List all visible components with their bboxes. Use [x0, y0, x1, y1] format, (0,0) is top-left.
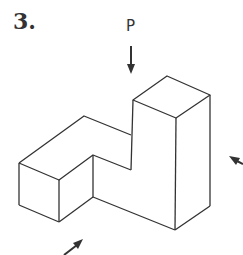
arm-back-top — [19, 116, 131, 163]
base-bottom-front — [93, 197, 175, 230]
left-block-bottom-right — [59, 197, 93, 222]
right-view-arrow — [229, 156, 243, 165]
top-view-arrow — [127, 46, 135, 74]
tall-block-front-edge — [175, 118, 176, 230]
isometric-figure — [0, 0, 243, 255]
left-block-bottom — [19, 205, 59, 222]
arm-top-front — [19, 155, 131, 180]
tall-block-bottom-right — [175, 206, 210, 230]
front-view-arrow — [64, 239, 83, 255]
tall-block-top-face — [133, 76, 210, 118]
tall-block-left-edge — [131, 100, 133, 170]
